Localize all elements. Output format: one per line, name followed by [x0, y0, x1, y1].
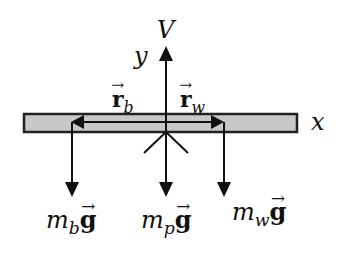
pivot-line-right — [166, 132, 188, 153]
x-axis-label: x — [311, 110, 325, 134]
mb-subscript: b — [69, 218, 80, 238]
vector-r-symbol: r — [112, 88, 124, 110]
x-axis-text: x — [311, 108, 325, 136]
force-mpg-arrowhead — [159, 182, 173, 197]
mass-symbol: m — [141, 206, 164, 234]
force-mbg-label: mbg — [46, 208, 97, 237]
gravity-vector-symbol: g — [270, 200, 287, 224]
vector-r-symbol: r — [180, 88, 192, 110]
y-axis-text: y — [134, 42, 148, 70]
y-axis-label: y — [134, 44, 148, 68]
mass-symbol: m — [46, 206, 69, 234]
force-mpg-label: mpg — [141, 208, 192, 237]
force-mwg-arrowhead — [217, 182, 231, 197]
mass-symbol: m — [232, 198, 255, 226]
force-mwg-label: mwg — [232, 200, 286, 229]
position-vector-rw-label: rw — [180, 88, 205, 115]
pivot-line-left — [144, 132, 166, 153]
force-v-text: V — [157, 16, 174, 44]
rw-subscript: w — [192, 98, 206, 117]
force-mbg-arrowhead — [65, 182, 79, 197]
position-vector-rb-label: rb — [112, 88, 134, 115]
mp-subscript: p — [164, 218, 175, 238]
gravity-vector-symbol: g — [175, 208, 192, 232]
force-v-arrowhead — [159, 46, 173, 61]
gravity-vector-symbol: g — [80, 208, 97, 232]
mw-subscript: w — [255, 210, 270, 230]
free-body-diagram: V y x rb rw mbg mpg mwg — [0, 0, 339, 253]
rb-subscript: b — [124, 98, 134, 117]
force-v-label: V — [157, 18, 174, 42]
